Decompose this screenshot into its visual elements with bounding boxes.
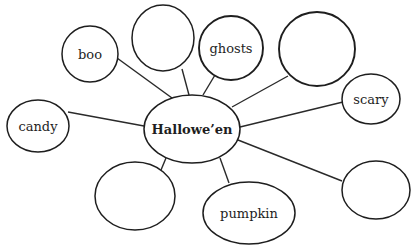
node-candy-label: candy [18,119,58,134]
node-boo: boo [62,26,118,82]
connector-lower-right-blank [238,140,342,181]
node-lower-left-blank[interactable] [95,162,175,230]
node-top-blank-shape[interactable] [132,5,194,71]
node-lower-right-blank[interactable] [342,161,410,219]
node-ghosts-label: ghosts [209,41,252,56]
center-node-halloween: Hallowe’en [144,95,240,163]
node-pumpkin-label: pumpkin [220,206,278,221]
connector-lower-left-blank [161,158,166,170]
connector-upper-right-blank [232,76,288,107]
connector-top-blank [182,69,189,95]
node-candy: candy [7,100,69,152]
node-scary-label: scary [353,92,389,107]
word-web-diagram: boo ghosts scary pumpkin candy Hallowe’e… [0,0,416,247]
connector-pumpkin [220,158,229,183]
node-upper-right-blank-shape[interactable] [279,12,355,86]
connector-scary [240,102,343,127]
connector-candy [68,112,144,126]
node-lower-left-blank-shape[interactable] [95,162,175,230]
center-node-label: Hallowe’en [152,122,234,137]
node-lower-right-blank-shape[interactable] [342,161,410,219]
node-boo-label: boo [78,47,102,62]
connector-ghosts [203,75,215,95]
node-pumpkin: pumpkin [203,182,295,244]
node-top-blank[interactable] [132,5,194,71]
node-upper-right-blank[interactable] [279,12,355,86]
node-scary: scary [342,74,400,124]
node-ghosts: ghosts [199,16,263,80]
